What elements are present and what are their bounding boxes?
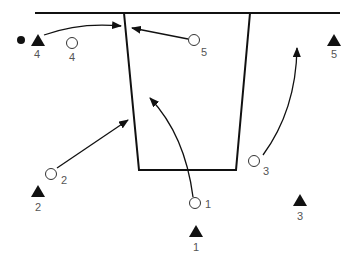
player-label: 1 — [205, 198, 211, 210]
defense-player-5: 5 — [327, 34, 341, 60]
player-label: 1 — [193, 241, 199, 253]
player-label: 3 — [297, 210, 303, 222]
player-label: 3 — [263, 165, 269, 177]
cut-arrow-3 — [263, 48, 297, 155]
defense-player-4: 4 — [31, 34, 45, 60]
cut-arrow-1 — [150, 98, 193, 197]
offense-player-1: 1 — [190, 198, 212, 211]
player-label: 5 — [331, 48, 337, 60]
offense-player-4: 4 — [67, 38, 78, 64]
player-label: 5 — [201, 46, 207, 58]
cut-arrow-2 — [57, 120, 128, 168]
lane-key — [124, 13, 250, 170]
cut-arrow-4 — [44, 25, 121, 35]
play-diagram: 1 2 3 4 5 1 2 3 4 5 — [0, 0, 360, 267]
offense-player-5: 5 — [189, 35, 208, 59]
defense-player-3: 3 — [293, 194, 307, 222]
cut-arrow-5 — [132, 28, 188, 39]
defense-player-2: 2 — [31, 185, 45, 213]
player-label: 4 — [34, 48, 40, 60]
ball-icon — [17, 36, 25, 44]
player-label: 2 — [35, 201, 41, 213]
player-label: 4 — [69, 51, 75, 63]
defense-player-1: 1 — [189, 225, 203, 253]
offense-player-2: 2 — [46, 169, 68, 187]
player-label: 2 — [61, 174, 67, 186]
offense-player-3: 3 — [249, 156, 270, 178]
